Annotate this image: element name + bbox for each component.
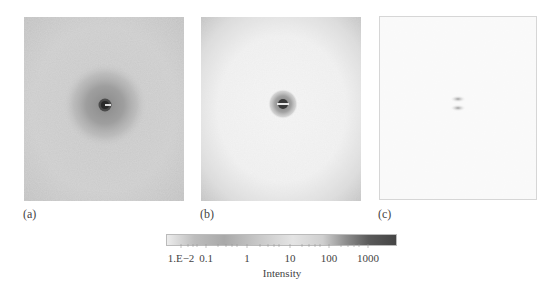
colorbar-tick-label: 10 xyxy=(285,252,296,264)
panel-label-b: (b) xyxy=(200,207,214,222)
colorbar-tick-label: 100 xyxy=(321,252,338,264)
colorbar-tick-label: 1.E−2 xyxy=(168,252,195,264)
colorbar-minor-ticks xyxy=(166,244,397,248)
colorbar-tick-label: 1 xyxy=(244,252,250,264)
scatter-pattern-c xyxy=(379,16,537,200)
scatter-pattern-b xyxy=(201,17,361,201)
scatter-pattern-a xyxy=(24,17,184,201)
pattern-b-image xyxy=(201,17,361,201)
colorbar-tick-label: 0.1 xyxy=(199,252,213,264)
panel-label-a: (a) xyxy=(23,207,36,222)
pattern-a-image xyxy=(24,17,184,201)
panel-label-c: (c) xyxy=(378,207,391,222)
colorbar-tick-label: 1000 xyxy=(357,252,379,264)
pattern-c-image xyxy=(380,17,537,200)
colorbar-title: Intensity xyxy=(263,267,302,279)
